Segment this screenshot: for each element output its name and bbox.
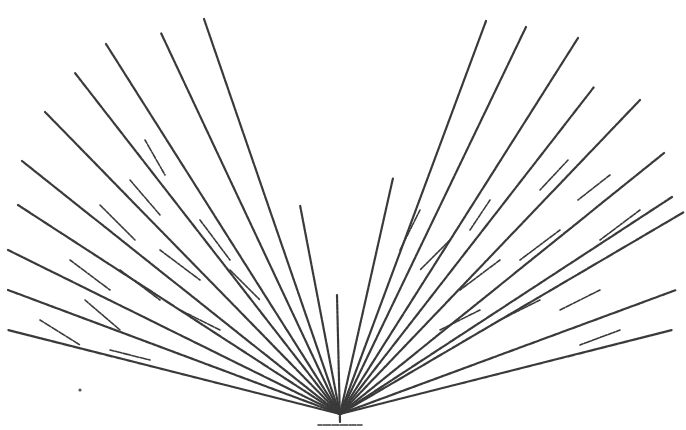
twig (460, 260, 500, 290)
branch (45, 112, 340, 414)
branch (8, 330, 340, 414)
twig (100, 205, 135, 240)
branch (340, 212, 684, 414)
branch (8, 250, 340, 414)
branch (204, 19, 340, 414)
twig (580, 330, 620, 345)
twig (110, 350, 150, 360)
branch (340, 100, 640, 414)
branch (340, 330, 672, 414)
fan-branch-drawing (0, 0, 686, 430)
twig (230, 270, 260, 300)
twig (520, 230, 560, 260)
twig (130, 180, 160, 215)
twig-branches (40, 140, 640, 360)
twig (120, 270, 160, 300)
branch (22, 161, 340, 414)
twig (70, 260, 110, 290)
branch (340, 197, 672, 414)
twig (600, 210, 640, 240)
twig (145, 140, 165, 175)
twig (540, 160, 568, 190)
twig (578, 175, 610, 200)
stray-dot (78, 388, 81, 391)
twig (500, 300, 540, 320)
twig (560, 290, 600, 310)
branch (340, 87, 594, 414)
main-branches (8, 19, 684, 414)
branch (75, 73, 340, 414)
twig (400, 210, 420, 250)
twig (40, 320, 80, 345)
